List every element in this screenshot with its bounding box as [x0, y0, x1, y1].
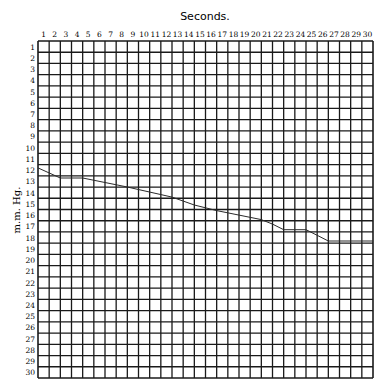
chart: Seconds. 1234567891011121314151617181920…	[0, 0, 388, 384]
svg-text:3: 3	[30, 65, 35, 74]
svg-text:30: 30	[363, 30, 373, 39]
svg-text:22: 22	[25, 279, 35, 288]
svg-text:19: 19	[240, 30, 250, 39]
svg-text:4: 4	[30, 76, 35, 85]
svg-text:17: 17	[217, 30, 227, 39]
svg-text:20: 20	[25, 256, 35, 265]
svg-text:2: 2	[30, 54, 35, 63]
svg-text:13: 13	[25, 177, 35, 186]
svg-text:30: 30	[25, 368, 35, 377]
svg-text:18: 18	[229, 30, 239, 39]
y-tick-labels: 1234567891011121314151617181920212223242…	[25, 43, 35, 378]
svg-text:15: 15	[25, 200, 35, 209]
svg-text:2: 2	[52, 30, 57, 39]
svg-text:24: 24	[25, 301, 35, 310]
svg-text:14: 14	[25, 189, 35, 198]
svg-text:29: 29	[25, 357, 35, 366]
svg-text:14: 14	[184, 30, 194, 39]
svg-text:28: 28	[340, 30, 350, 39]
chart-title: Seconds.	[180, 10, 230, 23]
svg-text:8: 8	[119, 30, 124, 39]
svg-text:29: 29	[351, 30, 361, 39]
svg-text:10: 10	[139, 30, 149, 39]
svg-text:5: 5	[86, 30, 91, 39]
svg-text:6: 6	[97, 30, 102, 39]
svg-text:21: 21	[25, 267, 35, 276]
svg-text:11: 11	[25, 155, 35, 164]
svg-text:13: 13	[173, 30, 183, 39]
svg-text:1: 1	[30, 43, 35, 52]
svg-text:1: 1	[41, 30, 46, 39]
svg-text:20: 20	[251, 30, 261, 39]
svg-text:5: 5	[30, 88, 35, 97]
svg-text:25: 25	[25, 312, 35, 321]
svg-text:27: 27	[25, 335, 35, 344]
svg-text:3: 3	[64, 30, 69, 39]
svg-text:19: 19	[25, 245, 35, 254]
svg-text:9: 9	[131, 30, 136, 39]
svg-text:16: 16	[25, 211, 35, 220]
svg-text:26: 26	[318, 30, 328, 39]
x-tick-labels: 1234567891011121314151617181920212223242…	[41, 30, 372, 39]
grid	[38, 41, 373, 378]
svg-text:25: 25	[307, 30, 317, 39]
svg-text:7: 7	[108, 30, 113, 39]
svg-text:23: 23	[284, 30, 294, 39]
svg-text:22: 22	[273, 30, 283, 39]
svg-text:9: 9	[30, 132, 35, 141]
svg-text:6: 6	[30, 99, 35, 108]
svg-text:16: 16	[206, 30, 216, 39]
svg-text:4: 4	[75, 30, 80, 39]
svg-text:21: 21	[262, 30, 272, 39]
svg-text:18: 18	[25, 234, 35, 243]
svg-text:7: 7	[30, 110, 35, 119]
svg-text:8: 8	[30, 121, 35, 130]
svg-text:12: 12	[25, 166, 35, 175]
svg-text:12: 12	[162, 30, 172, 39]
svg-text:26: 26	[25, 323, 35, 332]
svg-text:11: 11	[150, 30, 160, 39]
svg-text:28: 28	[25, 346, 35, 355]
svg-text:17: 17	[25, 222, 35, 231]
y-axis-label: m.m. Hg.	[11, 187, 22, 234]
svg-text:10: 10	[25, 144, 35, 153]
svg-text:24: 24	[296, 30, 306, 39]
svg-text:23: 23	[25, 290, 35, 299]
svg-text:15: 15	[195, 30, 205, 39]
svg-text:27: 27	[329, 30, 339, 39]
